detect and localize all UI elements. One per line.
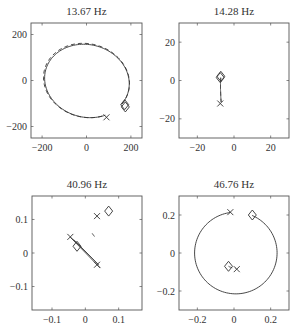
y-tick-label: 0 — [170, 248, 175, 259]
panel-title: 13.67 Hz — [66, 5, 106, 17]
x-tick-label: 200 — [123, 142, 138, 153]
series-curve — [195, 213, 277, 294]
axes-frame — [179, 23, 289, 138]
y-tick-label: 0.1 — [16, 214, 29, 225]
x-tick-label: −0.1 — [43, 314, 61, 325]
diamond-marker-icon — [105, 206, 113, 216]
axes-frame — [179, 196, 289, 310]
x-tick-label: −20 — [190, 142, 206, 153]
y-tick-label: 0 — [23, 248, 28, 259]
panel-40-96-hz: 40.96 Hz−0.100.1−0.100.1 — [10, 178, 142, 325]
x-marker-icon — [103, 114, 109, 120]
x-marker-icon — [217, 101, 223, 107]
y-tick-label: −200 — [6, 121, 27, 132]
y-tick-label: 0 — [170, 75, 175, 86]
x-tick-label: 20 — [266, 142, 276, 153]
x-tick-label: 0 — [232, 142, 237, 153]
panel-title: 46.76 Hz — [214, 178, 254, 190]
series-curve — [45, 44, 130, 117]
diamond-marker-icon — [248, 210, 256, 220]
series-line — [74, 240, 99, 265]
y-tick-label: 0.2 — [163, 210, 176, 221]
x-tick-label: 0.2 — [264, 314, 277, 325]
y-tick-label: 200 — [12, 29, 27, 40]
panel-title: 40.96 Hz — [67, 178, 107, 190]
panel-13-67-hz: 13.67 Hz−2000200−2000200 — [6, 5, 142, 153]
figure: 13.67 Hz−2000200−2000200 14.28 Hz−20020−… — [0, 0, 295, 332]
x-tick-label: −200 — [32, 142, 53, 153]
panel-14-28-hz: 14.28 Hz−20020−20020 — [159, 5, 289, 153]
y-tick-label: 20 — [165, 37, 175, 48]
x-tick-label: 0 — [232, 314, 237, 325]
y-tick-label: 0 — [22, 75, 27, 86]
y-tick-label: −0.1 — [10, 281, 28, 292]
series-curve — [92, 233, 95, 237]
axes-frame — [31, 23, 142, 138]
panel-46-76-hz: 46.76 Hz−0.200.2−0.200.2 — [157, 178, 289, 325]
x-tick-label: 0 — [84, 142, 89, 153]
x-tick-label: −0.2 — [188, 314, 206, 325]
x-tick-label: 0.1 — [112, 314, 125, 325]
x-tick-label: 0 — [83, 314, 88, 325]
panel-title: 14.28 Hz — [214, 5, 254, 17]
x-marker-icon — [67, 234, 73, 240]
series-curve — [44, 43, 130, 117]
x-marker-icon — [94, 213, 100, 219]
x-marker-icon — [234, 266, 240, 272]
y-tick-label: −0.2 — [157, 286, 175, 297]
y-tick-label: −20 — [159, 113, 175, 124]
x-marker-icon — [227, 209, 233, 215]
